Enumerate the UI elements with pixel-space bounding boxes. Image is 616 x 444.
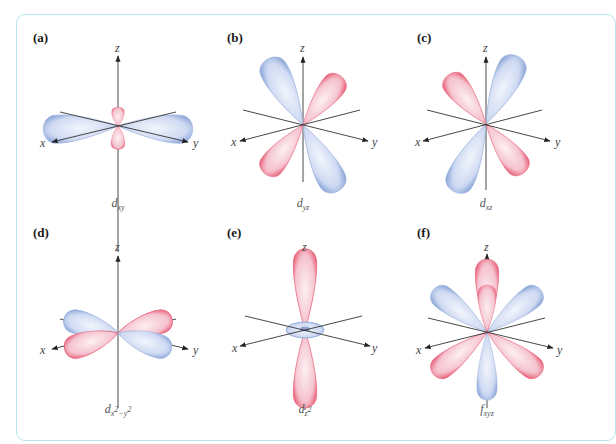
z-label: z bbox=[484, 240, 489, 255]
caption-fxyz: fxyz bbox=[480, 402, 494, 418]
caption-dz2: dz2 bbox=[298, 402, 311, 418]
x-label: x bbox=[415, 135, 420, 150]
caption-dxz: dxz bbox=[480, 196, 493, 212]
y-label: y bbox=[555, 135, 560, 150]
caption-dxy: dxy bbox=[111, 196, 124, 212]
z-label: z bbox=[115, 240, 120, 255]
y-label: y bbox=[557, 343, 562, 358]
panel-c-dxz bbox=[423, 50, 550, 197]
panel-label-d: (d) bbox=[33, 225, 49, 241]
z-label: z bbox=[302, 240, 307, 255]
panel-e-dz2 bbox=[240, 249, 370, 410]
panel-label-c: (c) bbox=[417, 30, 431, 46]
x-label: x bbox=[40, 343, 45, 358]
x-label: x bbox=[40, 136, 45, 151]
caption-dyz: dyz bbox=[297, 196, 310, 212]
panel-label-b: (b) bbox=[227, 30, 243, 46]
panel-a-dxy bbox=[43, 56, 194, 252]
z-label: z bbox=[300, 41, 305, 56]
z-label: z bbox=[115, 41, 120, 56]
panel-b-dyz bbox=[240, 52, 368, 197]
panel-d-dx2y2 bbox=[52, 256, 188, 408]
caption-dx2y2: dx2−y2 bbox=[105, 402, 132, 418]
panel-label-a: (a) bbox=[33, 30, 48, 46]
y-label: y bbox=[193, 136, 198, 151]
x-label: x bbox=[231, 135, 236, 150]
panel-label-f: (f) bbox=[417, 225, 430, 241]
y-label: y bbox=[372, 135, 377, 150]
x-label: x bbox=[232, 341, 237, 356]
panel-label-e: (e) bbox=[227, 225, 241, 241]
y-label: y bbox=[372, 341, 377, 356]
z-label: z bbox=[483, 41, 488, 56]
x-label: x bbox=[416, 343, 421, 358]
y-label: y bbox=[193, 343, 198, 358]
panel-f-fxyz bbox=[425, 254, 553, 408]
